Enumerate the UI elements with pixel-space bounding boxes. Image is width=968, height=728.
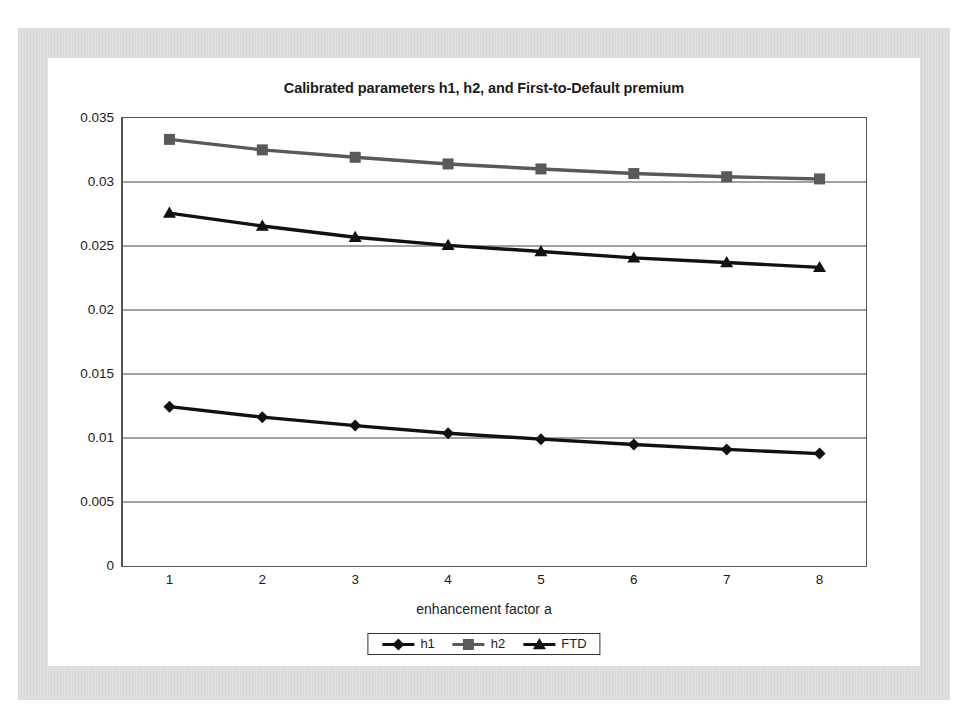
data-point-marker <box>350 152 361 163</box>
y-tick-label: 0.015 <box>48 366 114 381</box>
data-point-marker <box>721 171 732 182</box>
y-tick-label: 0.005 <box>48 494 114 509</box>
legend-entry-h1[interactable]: h1 <box>381 637 434 650</box>
x-tick-label: 3 <box>335 572 375 587</box>
data-point-marker <box>256 411 268 423</box>
data-point-marker <box>628 168 639 179</box>
chart-sheet: Calibrated parameters h1, h2, and First-… <box>48 58 920 666</box>
y-tick-label: 0.01 <box>48 430 114 445</box>
legend-key-triangle-icon <box>522 637 556 650</box>
x-tick-label: 6 <box>614 572 654 587</box>
data-point-marker <box>535 163 546 174</box>
series-h1 <box>163 401 825 460</box>
data-point-marker <box>392 639 404 651</box>
y-tick-label: 0.035 <box>48 110 114 125</box>
x-tick-label: 1 <box>149 572 189 587</box>
data-point-marker <box>349 420 361 432</box>
series-h2 <box>164 134 825 185</box>
data-point-marker <box>535 433 547 445</box>
data-point-marker <box>163 401 175 413</box>
chart-legend: h1h2FTD <box>367 633 600 655</box>
data-series-group <box>163 134 826 460</box>
y-tick-label: 0 <box>48 558 114 573</box>
plot-area <box>121 117 867 567</box>
y-tick-label: 0.02 <box>48 302 114 317</box>
legend-key-diamond-icon <box>381 637 415 650</box>
data-point-marker <box>628 439 640 451</box>
data-point-marker <box>164 134 175 145</box>
legend-label: h1 <box>420 637 434 650</box>
scanned-page: Calibrated parameters h1, h2, and First-… <box>0 0 968 728</box>
x-tick-label: 4 <box>428 572 468 587</box>
data-point-marker <box>814 448 826 460</box>
data-point-marker <box>257 144 268 155</box>
series-FTD <box>163 207 826 272</box>
chart-title: Calibrated parameters h1, h2, and First-… <box>48 80 920 96</box>
legend-label: FTD <box>561 637 586 650</box>
y-tick-label: 0.025 <box>48 238 114 253</box>
legend-entry-h2[interactable]: h2 <box>452 637 505 650</box>
plot-svg <box>123 118 866 566</box>
x-axis-tick-labels: 12345678 <box>123 572 866 596</box>
legend-entry-FTD[interactable]: FTD <box>522 637 586 650</box>
data-point-marker <box>443 158 454 169</box>
y-axis-tick-labels: 00.0050.010.0150.020.0250.030.035 <box>48 117 114 565</box>
data-point-marker <box>463 639 474 650</box>
x-tick-label: 8 <box>800 572 840 587</box>
x-axis-title: enhancement factor a <box>48 601 920 617</box>
legend-label: h2 <box>491 637 505 650</box>
series-line <box>169 213 819 267</box>
y-tick-label: 0.03 <box>48 174 114 189</box>
data-point-marker <box>721 443 733 455</box>
x-tick-label: 7 <box>707 572 747 587</box>
data-point-marker <box>814 173 825 184</box>
x-tick-label: 2 <box>242 572 282 587</box>
legend-key-square-icon <box>452 637 486 650</box>
gridlines <box>123 118 866 566</box>
data-point-marker <box>442 427 454 439</box>
x-tick-label: 5 <box>521 572 561 587</box>
series-line <box>169 407 819 454</box>
